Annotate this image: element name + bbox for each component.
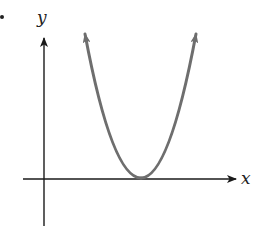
parabola-left-arm bbox=[85, 34, 141, 178]
x-axis-label: x bbox=[241, 168, 251, 188]
bullet-dot bbox=[0, 15, 4, 19]
parabola-right-arm bbox=[141, 34, 196, 178]
y-axis-label: y bbox=[36, 7, 47, 27]
parabola-diagram: y x bbox=[0, 0, 257, 226]
